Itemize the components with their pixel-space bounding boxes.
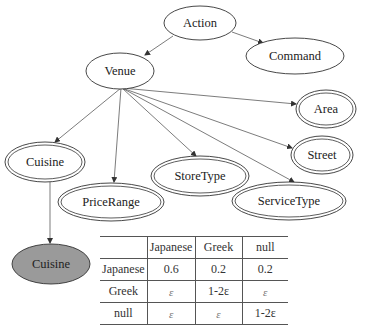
table-cell: ε	[195, 303, 242, 325]
node-cuisine-observed: Cuisine	[12, 244, 90, 284]
table-cell: ε	[242, 281, 288, 303]
node-label: Cuisine	[26, 155, 65, 169]
table-row: null ε ε 1-2ε	[100, 303, 288, 325]
node-cuisine: Cuisine	[5, 142, 85, 182]
table-header-cell: Greek	[195, 237, 242, 259]
table-header-row: Japanese Greek null	[100, 237, 288, 259]
node-label: ServiceType	[258, 194, 321, 208]
edge-action-venue	[145, 36, 173, 55]
node-action: Action	[164, 6, 236, 40]
table-header-cell: null	[242, 237, 288, 259]
node-pricerange: PriceRange	[58, 183, 164, 221]
node-label: Action	[183, 16, 218, 30]
node-label: PriceRange	[82, 195, 140, 209]
node-label: Venue	[104, 64, 136, 78]
node-label: StoreType	[174, 169, 226, 183]
node-command: Command	[246, 38, 344, 74]
table-cell: 0.6	[147, 259, 195, 281]
node-storetype: StoreType	[151, 156, 249, 196]
table-header-corner	[100, 237, 147, 259]
node-street: Street	[291, 136, 353, 174]
row-label: Greek	[100, 281, 147, 303]
row-label: null	[100, 303, 147, 325]
node-label: Street	[307, 148, 337, 162]
node-label: Command	[269, 49, 322, 63]
row-label: Japanese	[100, 259, 147, 281]
table-cell: 0.2	[242, 259, 288, 281]
edge-venue-pricerange	[114, 88, 121, 182]
node-area: Area	[296, 90, 356, 128]
edge-action-command	[232, 32, 263, 43]
table-cell: 1-2ε	[242, 303, 288, 325]
edge-venue-cuisine	[55, 88, 121, 142]
table-header-cell: Japanese	[147, 237, 195, 259]
edge-venue-area	[122, 88, 296, 104]
edge-venue-street	[122, 88, 292, 148]
node-label: Cuisine	[32, 257, 71, 271]
table-row: Japanese 0.6 0.2 0.2	[100, 259, 288, 281]
node-servicetype: ServiceType	[232, 182, 346, 220]
table-cell: ε	[147, 303, 195, 325]
table-row: Greek ε 1-2ε ε	[100, 281, 288, 303]
node-label: Area	[314, 102, 339, 116]
table-cell: ε	[147, 281, 195, 303]
conditional-probability-table: Japanese Greek null Japanese 0.6 0.2 0.2…	[100, 236, 288, 325]
table-cell: 0.2	[195, 259, 242, 281]
node-venue: Venue	[86, 53, 154, 89]
table-cell: 1-2ε	[195, 281, 242, 303]
